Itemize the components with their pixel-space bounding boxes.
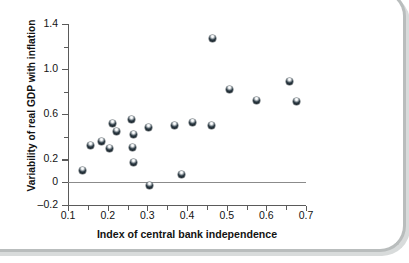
y-tick <box>62 159 68 160</box>
data-point <box>130 131 137 138</box>
scatter-plot: 1.41.00.60.20–0.2 0.10.20.30.40.50.60.7 … <box>0 0 409 263</box>
x-minor-tick <box>247 206 248 210</box>
x-tick-label: 0.2 <box>91 209 125 221</box>
x-tick-label: 0.5 <box>210 209 244 221</box>
chart-screenshot: 1.41.00.60.20–0.2 0.10.20.30.40.50.60.7 … <box>0 0 409 263</box>
y-tick-label: 1.0 <box>43 62 58 74</box>
data-point <box>178 171 185 178</box>
data-point <box>146 182 153 189</box>
data-point <box>209 35 216 42</box>
data-point <box>129 144 136 151</box>
x-tick-label: 0.7 <box>289 209 323 221</box>
y-tick-label: 1.4 <box>43 17 58 29</box>
data-point <box>109 120 116 127</box>
x-minor-tick <box>88 206 89 210</box>
x-tick-label: 0.4 <box>170 209 204 221</box>
y-tick-label: –0.2 <box>38 198 58 210</box>
y-minor-tick <box>64 92 68 93</box>
x-minor-tick <box>207 206 208 210</box>
data-point <box>87 142 94 149</box>
data-point <box>208 122 215 129</box>
x-minor-tick <box>128 206 129 210</box>
data-point <box>79 167 86 174</box>
y-tick-label: 0 <box>52 175 58 187</box>
y-minor-tick <box>64 137 68 138</box>
y-tick <box>62 182 68 183</box>
data-point <box>253 97 260 104</box>
data-point <box>189 119 196 126</box>
x-tick-label: 0.1 <box>51 209 85 221</box>
data-point <box>286 78 293 85</box>
zero-reference-line <box>68 182 306 183</box>
y-tick-label: 0.6 <box>43 107 58 119</box>
y-minor-tick <box>64 47 68 48</box>
y-axis-line <box>68 24 69 206</box>
data-point <box>113 128 120 135</box>
data-point <box>106 145 113 152</box>
x-minor-tick <box>167 206 168 210</box>
y-tick <box>62 69 68 70</box>
x-tick-label: 0.3 <box>130 209 164 221</box>
data-point <box>226 86 233 93</box>
data-point <box>98 138 105 145</box>
y-axis-title: Variability of real GDP with inflation <box>26 13 37 199</box>
y-tick <box>62 114 68 115</box>
y-tick-label: 0.2 <box>43 152 58 164</box>
data-point <box>130 159 137 166</box>
x-axis-title: Index of central bank independence <box>46 228 328 240</box>
x-tick-label: 0.6 <box>249 209 283 221</box>
y-tick <box>62 24 68 25</box>
data-point <box>128 116 135 123</box>
data-point <box>293 98 300 105</box>
data-point <box>171 122 178 129</box>
x-minor-tick <box>286 206 287 210</box>
data-point <box>145 124 152 131</box>
